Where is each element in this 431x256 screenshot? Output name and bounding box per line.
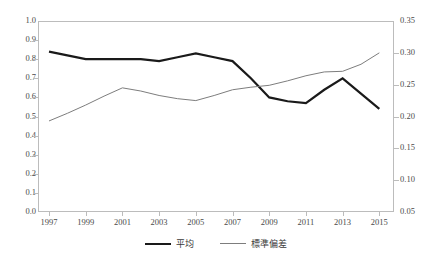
- y-axis-right-tick-label: 0.35: [400, 16, 430, 25]
- x-axis-tick-label: 2015: [359, 218, 399, 227]
- y-axis-right-tick-label: 0.25: [400, 80, 430, 89]
- y-axis-left-tick: [33, 97, 38, 98]
- x-axis-tick: [379, 212, 380, 216]
- x-axis-tick-label: 2013: [323, 218, 363, 227]
- x-axis-tick-label: 2005: [176, 218, 216, 227]
- y-axis-left-tick-label: 0.3: [4, 150, 36, 159]
- y-axis-left-tick: [33, 117, 38, 118]
- x-axis-tick: [122, 212, 123, 216]
- y-axis-left-tick-label: 0.4: [4, 131, 36, 140]
- x-axis-tick: [343, 212, 344, 216]
- x-axis-tick-label: 1999: [66, 218, 106, 227]
- legend-label: 標準偏差: [251, 237, 287, 250]
- y-axis-left-tick-label: 0.7: [4, 73, 36, 82]
- x-axis-tick: [49, 212, 50, 216]
- y-axis-left-tick: [33, 174, 38, 175]
- plot-area: [38, 21, 394, 212]
- chart-title: [0, 0, 431, 5]
- legend-item[interactable]: 標準偏差: [220, 237, 287, 250]
- y-axis-left-tick-label: 0.0: [4, 207, 36, 216]
- x-axis-tick: [86, 212, 87, 216]
- y-axis-right-tick-label: 0.15: [400, 143, 430, 152]
- x-axis-tick: [306, 212, 307, 216]
- y-axis-left-tick-label: 0.8: [4, 54, 36, 63]
- legend-item[interactable]: 平均: [145, 237, 194, 250]
- x-axis-tick-label: 1997: [29, 218, 69, 227]
- y-axis-left-tick-label: 0.5: [4, 112, 36, 121]
- y-axis-left-tick: [33, 40, 38, 41]
- x-axis-tick: [196, 212, 197, 216]
- y-axis-left-tick: [33, 136, 38, 137]
- legend-line-icon: [220, 243, 246, 244]
- y-axis-left-tick-label: 1.0: [4, 16, 36, 25]
- x-axis-tick-label: 2003: [139, 218, 179, 227]
- y-axis-right-tick-label: 0.30: [400, 48, 430, 57]
- y-axis-left-tick-label: 0.9: [4, 35, 36, 44]
- y-axis-right-tick-label: 0.10: [400, 175, 430, 184]
- x-axis-tick-label: 2009: [249, 218, 289, 227]
- y-axis-left-tick: [33, 193, 38, 194]
- x-axis-tick-label: 2011: [286, 218, 326, 227]
- y-axis-left-tick: [33, 59, 38, 60]
- legend-label: 平均: [176, 237, 194, 250]
- y-axis-left-tick-label: 0.6: [4, 92, 36, 101]
- y-axis-left-tick: [33, 78, 38, 79]
- y-axis-left-tick: [33, 155, 38, 156]
- y-axis-right-tick: [394, 85, 399, 86]
- legend-line-icon: [145, 243, 171, 245]
- x-axis-tick: [269, 212, 270, 216]
- y-axis-right-tick-label: 0.20: [400, 112, 430, 121]
- y-axis-left-tick-label: 0.2: [4, 169, 36, 178]
- x-axis-tick-label: 2001: [102, 218, 142, 227]
- x-axis-tick: [159, 212, 160, 216]
- x-axis-tick-label: 2007: [213, 218, 253, 227]
- chart-container: 平均標準偏差 0.00.10.20.30.40.50.60.70.80.91.0…: [0, 0, 431, 256]
- y-axis-right-tick: [394, 53, 399, 54]
- y-axis-right-tick: [394, 148, 399, 149]
- chart-legend: 平均標準偏差: [0, 237, 431, 250]
- x-axis-tick: [233, 212, 234, 216]
- y-axis-left-tick-label: 0.1: [4, 188, 36, 197]
- y-axis-right-tick-label: 0.05: [400, 207, 430, 216]
- y-axis-right-tick: [394, 117, 399, 118]
- y-axis-right-tick: [394, 180, 399, 181]
